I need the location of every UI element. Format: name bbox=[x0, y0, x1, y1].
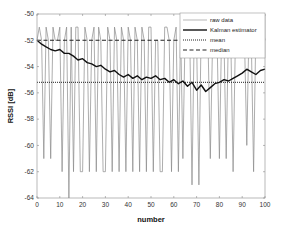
y-tick-label: -60 bbox=[25, 142, 35, 149]
y-tick-label: -54 bbox=[25, 63, 35, 70]
y-tick-label: -56 bbox=[25, 89, 35, 96]
x-tick-label: 20 bbox=[79, 201, 87, 208]
x-tick-label: 100 bbox=[260, 201, 271, 208]
y-tick-label: -50 bbox=[25, 10, 35, 17]
x-tick-label: 50 bbox=[147, 201, 155, 208]
legend-label-mean: mean bbox=[210, 37, 225, 43]
legend: raw data Kalman estimator mean median bbox=[180, 13, 265, 58]
x-tick-label: 30 bbox=[102, 201, 110, 208]
x-tick-label: 80 bbox=[216, 201, 224, 208]
x-tick-label: 70 bbox=[193, 201, 201, 208]
legend-label-median: median bbox=[210, 47, 230, 53]
x-tick-label: 0 bbox=[35, 201, 39, 208]
y-tick-label: -64 bbox=[25, 194, 35, 201]
y-tick-label: -52 bbox=[25, 37, 35, 44]
x-tick-label: 40 bbox=[125, 201, 133, 208]
y-axis-label: RSSI [dB] bbox=[6, 88, 15, 123]
y-tick-label: -62 bbox=[25, 168, 35, 175]
x-tick-label: 90 bbox=[239, 201, 247, 208]
legend-label-raw: raw data bbox=[210, 17, 234, 23]
x-axis-label: number bbox=[137, 215, 165, 224]
x-tick-label: 10 bbox=[56, 201, 64, 208]
legend-label-kalman: Kalman estimator bbox=[210, 27, 257, 33]
x-tick-label: 60 bbox=[170, 201, 178, 208]
rssi-chart: 0102030405060708090100-64-62-60-58-56-54… bbox=[0, 0, 284, 234]
y-tick-label: -58 bbox=[25, 115, 35, 122]
